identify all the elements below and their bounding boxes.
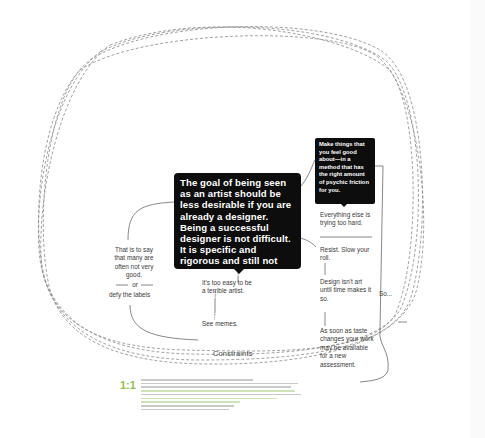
main-statement-box: The goal of being seen as an artist shou…: [174, 173, 301, 269]
note-taste-changes: As soon as taste changes your work may b…: [320, 327, 375, 369]
side-statement-text: Make things that you feel good about—in …: [319, 141, 369, 193]
note-or: or: [130, 281, 140, 289]
page-edge: [470, 0, 485, 438]
note-everything-else: Everything else is trying too hard.: [320, 211, 372, 228]
note-that-is-to-say: That is to say that many are often not v…: [113, 246, 155, 280]
note-so: So...: [379, 290, 392, 298]
side-statement-box: Make things that you feel good about—in …: [315, 138, 375, 204]
note-defy-labels: defy the labels: [109, 291, 150, 299]
constraints-label: Constraints: [213, 349, 253, 358]
note-resist: Resist. Slow your roll.: [320, 246, 375, 263]
caption-text-block: [141, 377, 301, 412]
note-see-memes: See memes.: [202, 320, 238, 328]
ratio-label: 1:1: [120, 379, 136, 391]
note-too-easy: It's too easy to be a terrible artist.: [202, 279, 252, 296]
diagram-canvas: The goal of being seen as an artist shou…: [0, 0, 485, 438]
note-design-isnt-art: Design isn't art until time makes it so.: [320, 278, 375, 303]
